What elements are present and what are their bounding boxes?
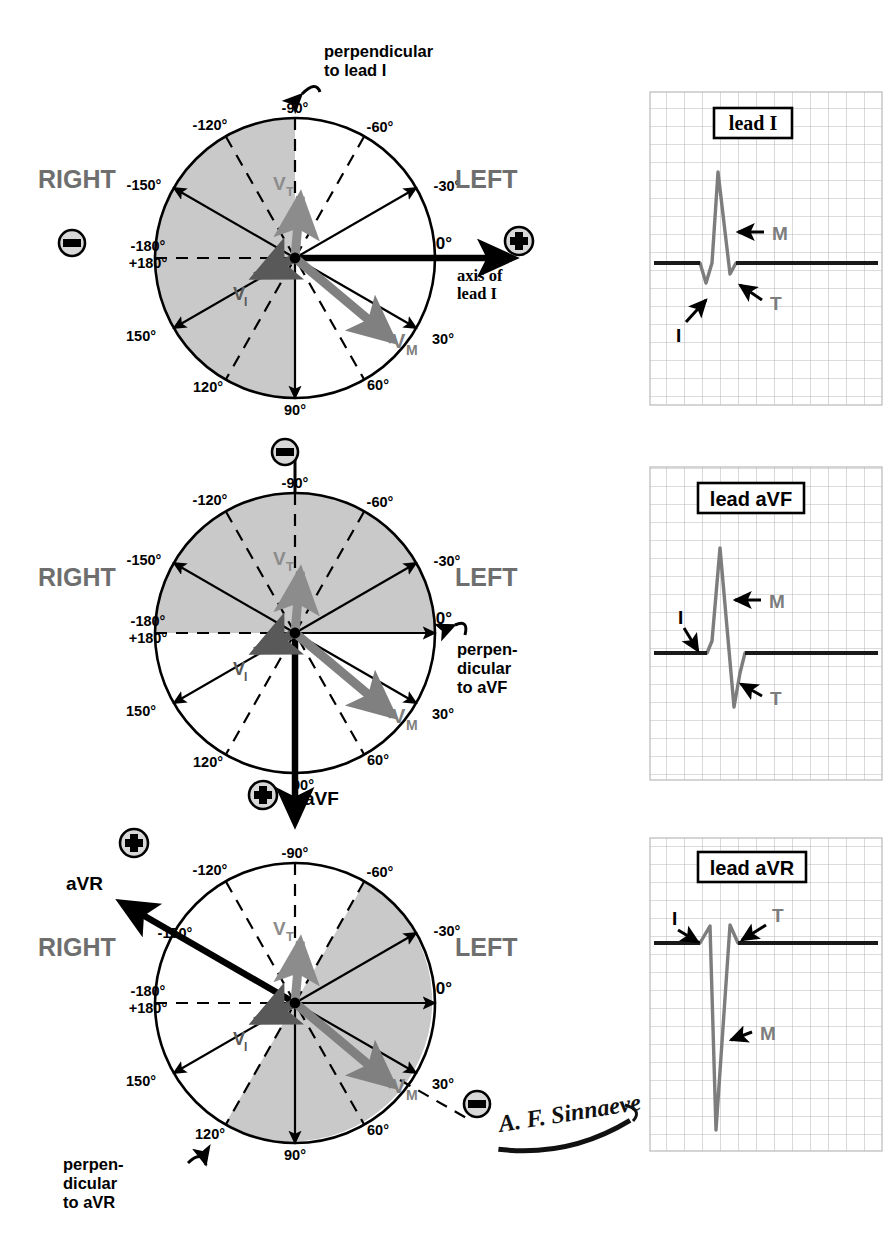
label-VI-sub: I (244, 670, 247, 684)
perpendicular-callout-hook (302, 86, 320, 94)
tick-90: 90° (284, 402, 306, 418)
tick-minus60: -60° (367, 119, 394, 135)
perpendicular-text-line1: perpen- (457, 640, 518, 658)
tick-150: 150° (126, 328, 156, 344)
vector-VT (295, 941, 300, 1003)
tick-minus90: -90° (282, 845, 309, 861)
tick-minus90: -90° (282, 475, 309, 491)
side-label-left: LEFT (455, 165, 518, 193)
tick-plus180: +180° (129, 1000, 168, 1016)
polarity-marker-positive (505, 227, 533, 255)
label-VT-sub: T (286, 929, 294, 944)
ecg-panel-lead-aVF: lead aVF I M T (650, 467, 882, 780)
vector-VT (295, 571, 300, 633)
label-VM-main: V (392, 330, 406, 352)
polarity-marker-positive (120, 829, 148, 857)
tick-30: 30° (432, 706, 454, 722)
vector-labels: V T (273, 918, 294, 944)
vector-VT (295, 196, 300, 258)
perpendicular-text-line2: dicular (63, 1174, 118, 1192)
perpendicular-callout-hook (188, 1156, 206, 1165)
axis-label-line2: lead I (457, 284, 497, 303)
annotation-label-M: M (760, 1023, 776, 1044)
label-VM-sub: M (406, 342, 418, 358)
tick-plus180: +180° (129, 255, 168, 271)
lead-axis-label: aVF (304, 788, 339, 809)
label-VM-sub: M (406, 1087, 418, 1103)
tick-minus120: -120° (193, 492, 228, 508)
tick-60: 60° (367, 1122, 389, 1138)
origin-dot (290, 253, 301, 264)
tick-minus180: -180° (131, 983, 166, 999)
perpendicular-text-line3: to aVR (63, 1193, 115, 1211)
polarity-marker-negative (59, 230, 85, 256)
axis-label-line1: axis of (457, 266, 503, 285)
side-label-left: LEFT (455, 933, 518, 961)
tick-minus150: -150° (158, 925, 193, 941)
tick-minus60: -60° (367, 494, 394, 510)
vector-VM (295, 258, 393, 340)
side-label-left: LEFT (455, 563, 518, 591)
tick-minus150: -150° (127, 552, 162, 568)
tick-150: 150° (126, 703, 156, 719)
ecg-title: lead I (729, 112, 778, 134)
tick-minus90: -90° (282, 100, 309, 116)
vector-VM (295, 633, 393, 715)
annotation-label-T: T (770, 293, 782, 314)
tick-60: 60° (367, 377, 389, 393)
lead-axis-label: aVR (66, 873, 103, 894)
diagram-lead-aVF: -90° -60° -30° 0° 30° 60° 90° 120° 150° … (38, 439, 518, 822)
annotation-label-I: I (678, 607, 683, 628)
tick-30: 30° (432, 1076, 454, 1092)
tick-150: 150° (126, 1073, 156, 1089)
tick-90: 90° (284, 1147, 306, 1163)
label-VM-sub: M (406, 717, 418, 733)
ecg-panel-lead-I: lead I I M T (650, 92, 882, 405)
tick-zero: 0° (436, 979, 452, 998)
polarity-marker-negative (272, 439, 298, 465)
ecg-title: lead aVF (710, 488, 792, 510)
tick-minus150: -150° (127, 177, 162, 193)
origin-dot (290, 628, 301, 639)
label-VT-sub: T (286, 184, 294, 199)
annotation-label-M: M (772, 223, 788, 244)
ecg-title: lead aVR (710, 857, 795, 879)
perpendicular-text-line2: to lead I (324, 61, 386, 79)
label-VM-main: V (392, 705, 406, 727)
label-VT-sub: T (286, 559, 294, 574)
figure-canvas: -90° -60° -30° 0° 30° 60° 90° 120° 150° … (0, 0, 892, 1255)
annotation-label-I: I (672, 908, 677, 929)
shaded-negative-sector (225, 882, 432, 1142)
label-VT-main: V (273, 173, 286, 194)
perpendicular-text-line1: perpen- (63, 1155, 124, 1173)
signature-text: A. F. Sinnaeve (495, 1089, 643, 1138)
annotation-label-M: M (769, 591, 785, 612)
tick-30: 30° (432, 331, 454, 347)
tick-60: 60° (367, 752, 389, 768)
side-label-right: RIGHT (38, 563, 116, 591)
diagram-lead-aVR: -90° -60° -30° 0° 30° 60° 90° 120° 150° … (38, 829, 518, 1211)
origin-dot (290, 998, 301, 1009)
annotation-label-I: I (676, 325, 681, 346)
tick-plus180: +180° (129, 630, 168, 646)
label-VI-sub: I (244, 1040, 247, 1054)
tick-minus180: -180° (131, 238, 166, 254)
polarity-marker-negative (464, 1091, 490, 1117)
perpendicular-text-line1: perpendicular (324, 42, 434, 60)
ecg-title-box: lead I (714, 108, 792, 138)
ecg-title-box: lead aVR (698, 852, 806, 882)
tick-120: 120° (193, 379, 223, 395)
annotation-label-T: T (770, 688, 782, 709)
perpendicular-callout-hook (455, 623, 466, 635)
label-VI-sub: I (244, 295, 247, 309)
label-VT-main: V (273, 918, 286, 939)
ecg-axis-figure: -90° -60° -30° 0° 30° 60° 90° 120° 150° … (0, 0, 892, 1255)
label-VT-main: V (273, 548, 286, 569)
tick-minus120: -120° (193, 117, 228, 133)
diagram-lead-I: -90° -60° -30° 0° 30° 60° 90° 120° 150° … (38, 42, 533, 418)
tick-zero: 0° (436, 609, 452, 628)
tick-120: 120° (195, 1126, 225, 1142)
annotation-label-T: T (772, 905, 784, 926)
ecg-panel-lead-aVR: lead aVR I T M (650, 838, 882, 1151)
tick-minus60: -60° (367, 864, 394, 880)
